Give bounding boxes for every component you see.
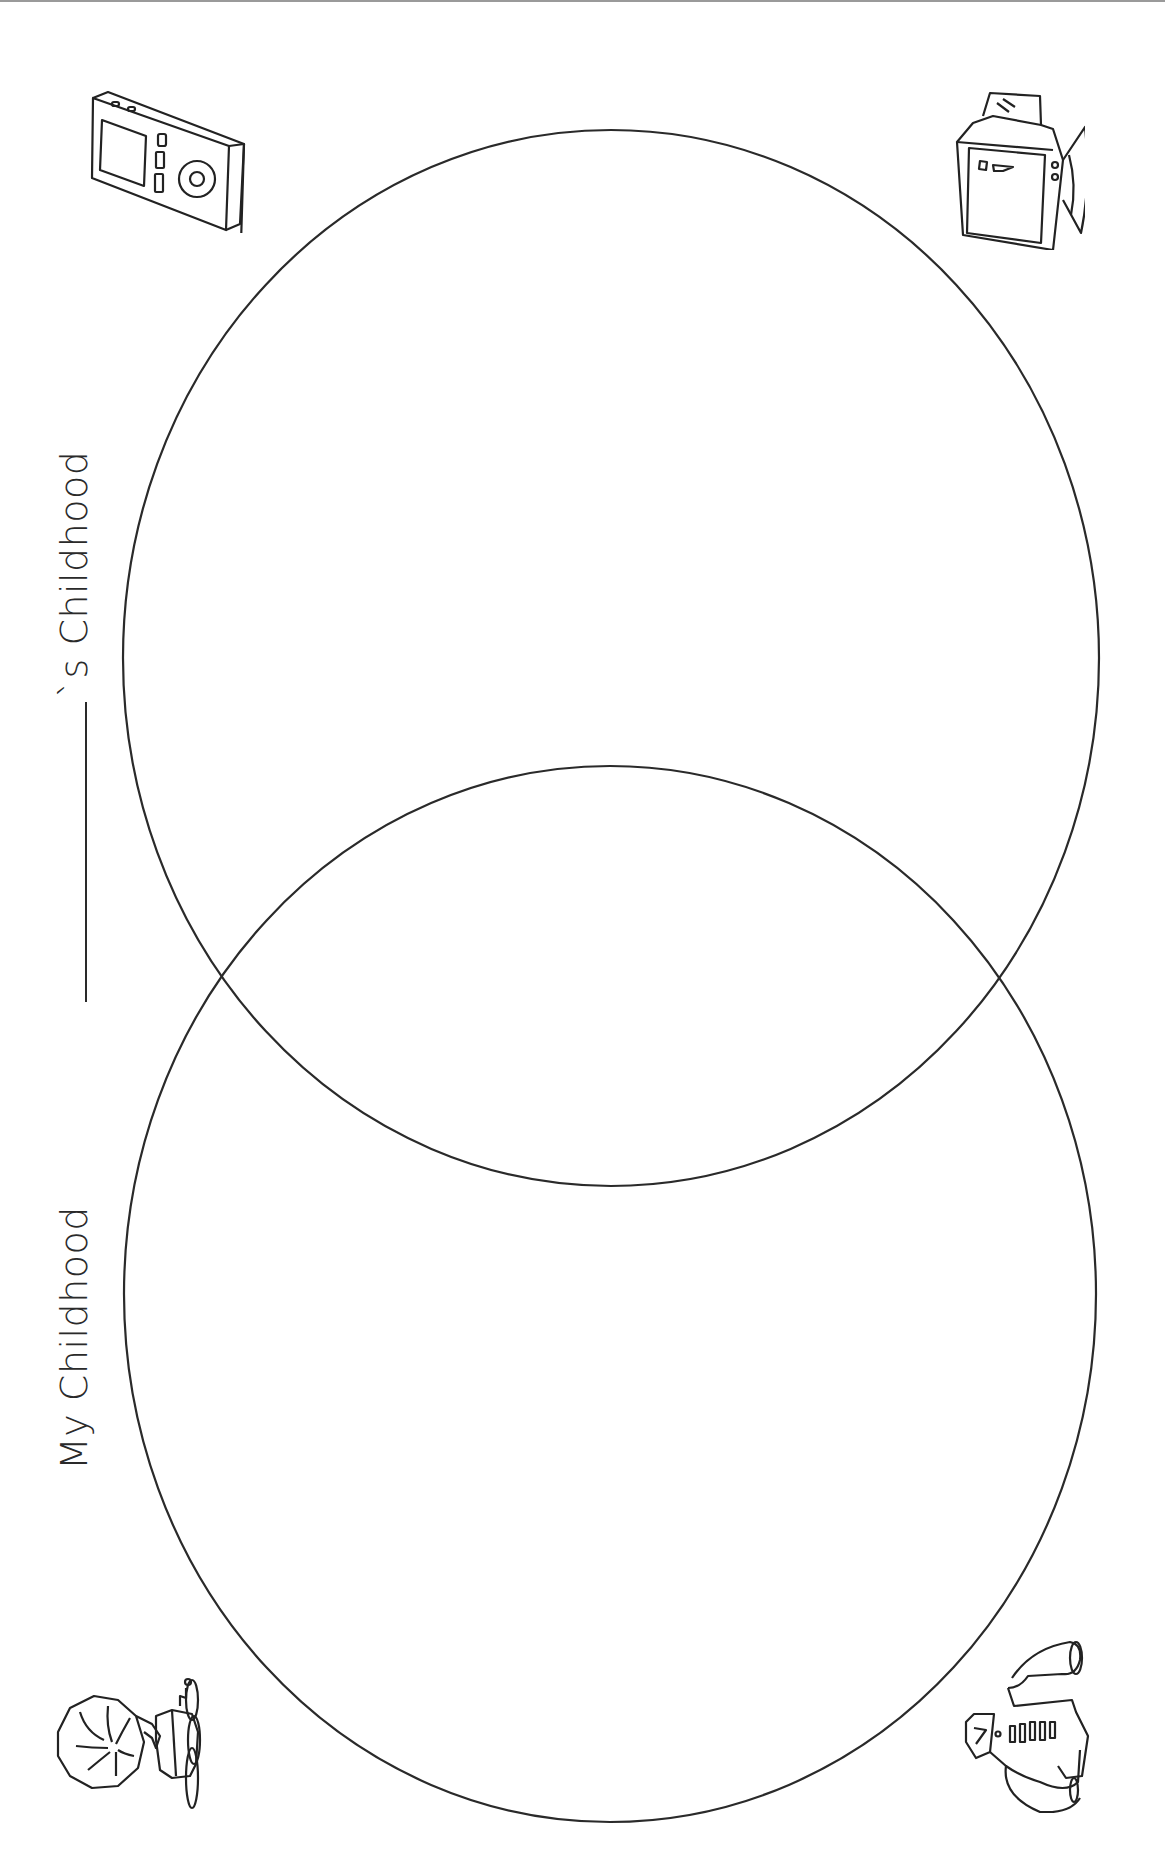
other-childhood-label: `s Childhood bbox=[52, 451, 96, 1002]
name-blank-line[interactable] bbox=[55, 702, 87, 1002]
gramophone-icon bbox=[52, 1660, 202, 1820]
venn-diagram bbox=[0, 0, 1165, 1864]
other-childhood-text: `s Childhood bbox=[52, 451, 96, 698]
shirt-icon bbox=[962, 1618, 1092, 1813]
upper-circle-childhood-other bbox=[123, 130, 1099, 1186]
camcorder-icon bbox=[945, 85, 1085, 250]
lower-circle-my-childhood bbox=[124, 766, 1096, 1822]
mp3-player-icon bbox=[88, 88, 248, 233]
my-childhood-label: My Childhood bbox=[52, 1206, 96, 1470]
my-childhood-text: My Childhood bbox=[52, 1206, 96, 1470]
